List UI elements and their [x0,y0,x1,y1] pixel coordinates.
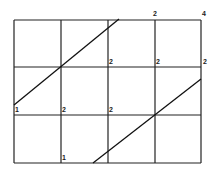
vertex-label: 2 [109,58,113,65]
vertex-label: 4 [202,10,206,17]
vertex-label: 1 [62,154,66,161]
vertex-label: 2 [156,58,160,65]
grid-lines [14,20,201,163]
lower-diagonal [93,79,201,163]
vertex-labels: 242221221 [15,10,207,161]
upper-diagonal [14,19,119,105]
vertex-label: 2 [203,58,207,65]
vertex-label: 1 [15,106,19,113]
vertex-label: 2 [109,106,113,113]
grid-diagram: 242221221 [0,0,219,183]
vertex-label: 2 [62,106,66,113]
vertex-label: 2 [153,10,157,17]
